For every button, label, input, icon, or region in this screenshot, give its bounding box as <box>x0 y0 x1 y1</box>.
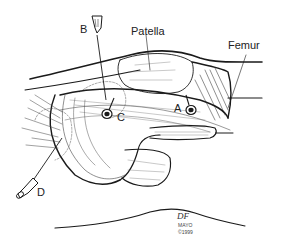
label-patella: Patella <box>131 26 165 37</box>
signature-copyright: ©1999 <box>178 230 193 235</box>
label-a: A <box>174 103 181 114</box>
artist-initials: DF <box>177 211 189 221</box>
label-c: C <box>117 112 125 123</box>
needle-b <box>92 16 106 100</box>
label-d: D <box>37 187 45 198</box>
signature-org: MAYO <box>178 223 192 228</box>
illustration: Patella Femur B A C D DF MAYO ©1999 <box>0 0 286 245</box>
label-femur: Femur <box>228 40 260 51</box>
label-b: B <box>80 24 87 35</box>
